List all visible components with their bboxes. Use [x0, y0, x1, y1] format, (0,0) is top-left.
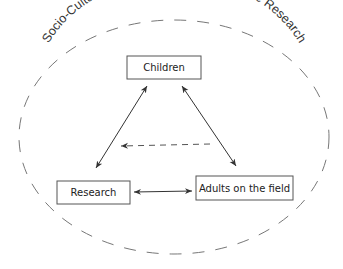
node-children-label: Children: [143, 62, 185, 73]
edge-children-adults: [182, 86, 236, 166]
node-children: Children: [127, 56, 201, 79]
edge-adults-to-research-dashed: [121, 144, 210, 146]
node-research: Research: [57, 181, 130, 204]
context-diagram: Socio-Cultural and Temporal Context of t…: [0, 0, 343, 269]
node-research-label: Research: [71, 187, 117, 198]
node-adults-label: Adults on the field: [199, 183, 290, 194]
context-boundary: [19, 20, 329, 254]
edge-research-adults: [134, 191, 192, 192]
node-adults: Adults on the field: [196, 176, 293, 200]
context-label: Socio-Cultural and Temporal Context of t…: [39, 0, 309, 45]
edge-children-research: [96, 86, 147, 168]
